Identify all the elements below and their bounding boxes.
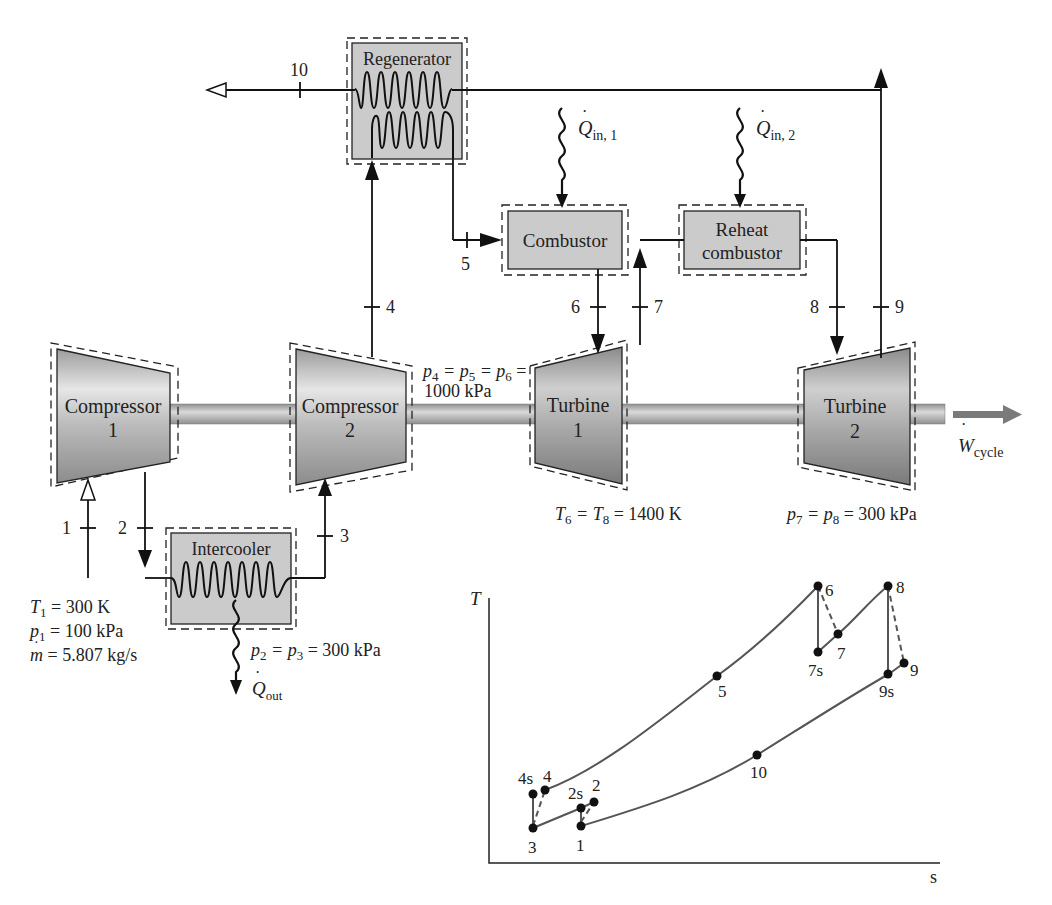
ts-x-label: s (930, 867, 937, 887)
reheat-combustor: Reheat combustor (679, 205, 806, 275)
svg-text:7s: 7s (808, 661, 823, 680)
turbine-2-label: Turbine (824, 395, 887, 417)
p7-p8-annotation: p7 = p8 = 300 kPa (785, 504, 917, 527)
q-in-1-arrow-icon (556, 194, 568, 208)
gas-turbine-diagram: Wcycle · Compressor 1 Compressor 2 Turbi… (0, 0, 1052, 905)
flow-arrowheads (81, 68, 888, 568)
flow-lines (80, 82, 889, 578)
exhaust-open-arrow-icon (207, 83, 226, 97)
compressor-1: Compressor 1 (51, 343, 178, 487)
arrow-up-icon (365, 160, 379, 180)
t6-t8-annotation: T6 = T8 = 1400 K (555, 504, 682, 527)
ts-point-4 (541, 786, 550, 795)
intercooler: Intercooler (166, 528, 296, 629)
ts-point-9s (884, 670, 893, 679)
q-out-arrow-icon (230, 680, 242, 695)
q-dot: · (582, 103, 587, 120)
svg-text:4: 4 (543, 767, 552, 786)
m-dot: · (34, 635, 39, 650)
compressor-2-number: 2 (345, 419, 355, 441)
ts-point-6 (814, 582, 823, 591)
svg-text:4s: 4s (518, 769, 533, 788)
q-in-1-label: Qin, 1 (578, 117, 617, 143)
reheat-combustor-label-1: Reheat (716, 219, 769, 240)
svg-text:8: 8 (896, 578, 905, 597)
turbine-1: Turbine 1 (530, 340, 627, 490)
intercooler-label: Intercooler (192, 539, 271, 559)
arrow-up-icon (318, 478, 332, 496)
compressor-1-label: Compressor (65, 395, 162, 418)
inlet-open-arrow-icon (81, 480, 95, 500)
q-dot: · (760, 103, 765, 120)
ts-point-9 (900, 659, 909, 668)
state-10: 10 (290, 60, 308, 80)
ts-point-10 (753, 751, 762, 760)
svg-text:2s: 2s (568, 784, 583, 803)
q-dot: · (255, 664, 260, 681)
p1-annotation: p1 = 100 kPa (28, 621, 123, 644)
ts-point-7 (834, 630, 843, 639)
compressor-2: Compressor 2 (290, 343, 412, 492)
state-5: 5 (461, 254, 470, 274)
state-8: 8 (810, 297, 819, 317)
state-2: 2 (118, 518, 127, 538)
compressor-1-number: 1 (108, 419, 118, 441)
svg-text:5: 5 (718, 682, 727, 701)
state-3: 3 (340, 526, 349, 546)
ts-point-labels: 1 2s 2 3 4s 4 5 6 7s 7 8 9s 9 10 (518, 578, 919, 857)
ts-point-4s (529, 790, 538, 799)
state-6: 6 (571, 297, 580, 317)
turbine-2: Turbine 2 (798, 342, 915, 491)
regenerator: Regenerator (347, 38, 467, 164)
state-4: 4 (386, 297, 395, 317)
ts-point-1 (577, 822, 586, 831)
ts-point-8 (884, 582, 893, 591)
svg-text:9: 9 (910, 661, 919, 680)
w-dot: · (961, 416, 966, 433)
ts-points (529, 582, 909, 833)
ts-y-label: T (470, 588, 482, 609)
p2-p3-annotation: p2 = p3 = 300 kPa (249, 640, 381, 663)
svg-text:9s: 9s (879, 682, 894, 701)
q-in-1-wave (559, 108, 565, 196)
svg-text:3: 3 (528, 838, 537, 857)
q-in-2-label: Qin, 2 (756, 117, 795, 143)
arrow-down-icon (830, 336, 844, 355)
ts-point-5 (713, 672, 722, 681)
ts-curves (533, 586, 904, 828)
q-in-2-wave (737, 108, 743, 196)
arrow-up-icon (874, 68, 888, 88)
ts-dashed (533, 586, 904, 826)
combustor-label: Combustor (523, 230, 608, 251)
state-1: 1 (62, 518, 71, 538)
ts-diagram: T s (470, 578, 940, 887)
ts-point-3 (529, 824, 538, 833)
arrow-up-icon (633, 248, 647, 268)
arrow-right-icon (480, 233, 502, 247)
turbine-2-number: 2 (850, 420, 860, 442)
ts-point-7s (814, 648, 823, 657)
w-cycle-label: Wcycle (958, 435, 1003, 460)
state-7: 7 (654, 297, 663, 317)
regenerator-label: Regenerator (363, 49, 451, 69)
turbine-1-number: 1 (573, 419, 583, 441)
ts-point-2 (590, 798, 599, 807)
p4-value: 1000 kPa (424, 381, 492, 401)
arrow-down-icon (138, 550, 152, 568)
q-out-label: Qout (252, 678, 283, 703)
turbine-1-label: Turbine (547, 394, 610, 416)
svg-text:10: 10 (750, 763, 767, 782)
t1-annotation: T1 = 300 K (30, 597, 110, 620)
svg-text:2: 2 (592, 776, 601, 795)
combustor: Combustor (502, 205, 628, 275)
q-in-2-arrow-icon (734, 194, 746, 208)
svg-text:1: 1 (576, 836, 585, 855)
svg-text:6: 6 (825, 581, 834, 600)
reheat-combustor-label-2: combustor (702, 242, 783, 263)
svg-text:7: 7 (837, 644, 846, 663)
ts-axes (489, 598, 940, 863)
compressor-2-label: Compressor (302, 395, 399, 418)
state-9: 9 (895, 297, 904, 317)
ts-point-2s (577, 804, 586, 813)
mdot-annotation: m = 5.807 kg/s (30, 645, 137, 665)
